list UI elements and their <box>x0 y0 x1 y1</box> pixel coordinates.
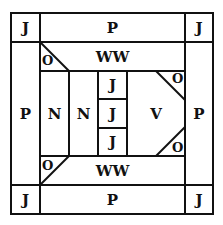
inner-bottom-band: WW <box>40 156 185 185</box>
triangle-top-right: O <box>172 71 183 86</box>
triangle-bottom-right: O <box>172 140 183 155</box>
center-square-2: J <box>98 99 127 128</box>
triangle-top-left: O <box>42 53 53 68</box>
corner-top-right: J <box>185 13 213 42</box>
inner-left-strip-1: N <box>40 71 69 156</box>
top-band: P <box>40 13 185 42</box>
corner-bottom-right: J <box>185 185 213 214</box>
corner-bottom-left: J <box>11 185 40 214</box>
corner-top-left: J <box>11 13 40 42</box>
center-square-3: J <box>98 128 127 156</box>
inner-top-band: WW <box>40 42 185 71</box>
inner-left-strip-2: N <box>69 71 98 156</box>
center-square-1: J <box>98 71 127 99</box>
triangle-bottom-left: O <box>42 158 53 173</box>
right-band: P <box>185 42 213 185</box>
left-band: P <box>11 42 40 185</box>
bottom-band: P <box>40 185 185 214</box>
